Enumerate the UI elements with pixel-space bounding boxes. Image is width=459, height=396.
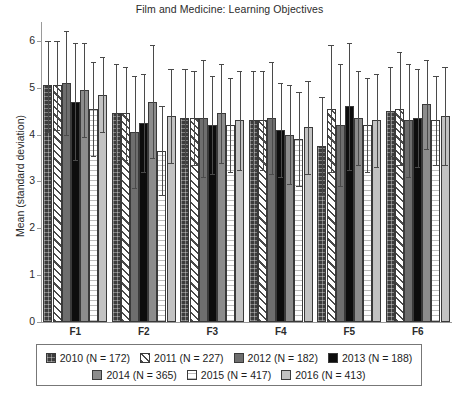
error-bar-cap	[237, 170, 242, 171]
error-bar-cap	[296, 92, 301, 93]
error-bar-2010-F4	[253, 71, 254, 169]
error-bar-cap	[228, 78, 233, 79]
error-bar-2011-F1	[57, 41, 58, 130]
error-bar-2015-F2	[162, 106, 163, 195]
y-tick	[37, 135, 41, 136]
error-bar-2014-F4	[290, 85, 291, 183]
error-bar-cap	[123, 67, 128, 68]
error-bar-2016-F2	[171, 69, 172, 163]
error-bar-cap	[433, 76, 438, 77]
error-bar-2016-F3	[240, 71, 241, 169]
error-bar-2014-F1	[84, 43, 85, 137]
legend-swatch-gray	[92, 370, 102, 380]
y-tick	[37, 181, 41, 182]
error-bar-cap	[201, 60, 206, 61]
error-bar-cap	[328, 172, 333, 173]
chart-legend: 2010 (N = 172)2011 (N = 227)2012 (N = 18…	[36, 344, 422, 386]
y-axis-line	[41, 22, 42, 322]
legend-swatch-white-diagonal-hatch	[140, 353, 150, 363]
y-tick-label: 3	[19, 174, 35, 186]
error-bar-2010-F3	[185, 69, 186, 167]
error-bar-cap	[374, 167, 379, 168]
error-bar-cap	[269, 62, 274, 63]
error-bar-2015-F3	[230, 78, 231, 172]
error-bar-cap	[442, 165, 447, 166]
error-bar-cap	[278, 83, 283, 84]
error-bar-2011-F3	[194, 71, 195, 165]
error-bar-cap	[347, 43, 352, 44]
y-tick	[37, 322, 41, 323]
error-bar-cap	[150, 158, 155, 159]
error-bar-cap	[406, 64, 411, 65]
error-bar-cap	[73, 160, 78, 161]
error-bar-cap	[397, 52, 402, 53]
error-bar-cap	[424, 60, 429, 61]
error-bar-cap	[210, 174, 215, 175]
error-bar-2013-F4	[281, 83, 282, 177]
x-tick-label-F4: F4	[247, 326, 316, 337]
plot-area: 0123456 F1F2F3F4F5F6	[41, 22, 452, 322]
y-tick-label: 0	[19, 315, 35, 327]
legend-item-2015[interactable]: 2015 (N = 417)	[187, 369, 271, 381]
error-bar-cap	[182, 69, 187, 70]
error-bar-2011-F4	[263, 71, 264, 169]
legend-label: 2010 (N = 172)	[60, 352, 130, 364]
error-bar-cap	[114, 163, 119, 164]
error-bar-2014-F2	[153, 45, 154, 158]
error-bar-cap	[182, 167, 187, 168]
x-tick-label-F5: F5	[315, 326, 384, 337]
error-bar-2016-F4	[308, 81, 309, 175]
error-bar-2012-F3	[203, 60, 204, 177]
error-bar-cap	[132, 76, 137, 77]
error-bar-2013-F6	[418, 69, 419, 167]
error-bar-cap	[54, 130, 59, 131]
x-tick-label-F6: F6	[384, 326, 453, 337]
error-bar-cap	[159, 195, 164, 196]
legend-swatch-white-horizontal-lines	[187, 370, 197, 380]
error-bar-cap	[260, 71, 265, 72]
legend-swatch-medium-gray	[234, 353, 244, 363]
error-bar-cap	[388, 156, 393, 157]
error-bar-cap	[338, 64, 343, 65]
legend-label: 2012 (N = 182)	[248, 352, 318, 364]
error-bar-cap	[141, 74, 146, 75]
legend-label: 2011 (N = 227)	[154, 352, 224, 364]
error-bar-2015-F6	[436, 76, 437, 165]
error-bar-2016-F6	[445, 67, 446, 165]
legend-item-2013[interactable]: 2013 (N = 188)	[328, 352, 412, 364]
legend-row: 2010 (N = 172)2011 (N = 227)2012 (N = 18…	[41, 349, 417, 366]
legend-label: 2014 (N = 365)	[106, 369, 176, 381]
error-bar-cap	[365, 78, 370, 79]
error-bar-2013-F3	[212, 76, 213, 174]
error-bar-2016-F5	[377, 74, 378, 168]
error-bar-cap	[305, 81, 310, 82]
legend-label: 2013 (N = 188)	[342, 352, 412, 364]
error-bar-cap	[64, 135, 69, 136]
legend-item-2012[interactable]: 2012 (N = 182)	[234, 352, 318, 364]
error-bar-cap	[45, 132, 50, 133]
error-bar-2014-F6	[427, 60, 428, 149]
legend-item-2011[interactable]: 2011 (N = 227)	[140, 352, 224, 364]
error-bar-cap	[347, 170, 352, 171]
error-bar-cap	[91, 156, 96, 157]
error-bar-cap	[251, 170, 256, 171]
error-bar-cap	[296, 186, 301, 187]
error-bar-2011-F6	[400, 52, 401, 165]
error-bar-cap	[82, 43, 87, 44]
chart-title: Film and Medicine: Learning Objectives	[0, 3, 459, 15]
error-bar-cap	[54, 41, 59, 42]
error-bar-cap	[228, 172, 233, 173]
error-bar-cap	[219, 163, 224, 164]
legend-item-2016[interactable]: 2016 (N = 413)	[281, 369, 365, 381]
y-tick	[37, 228, 41, 229]
legend-item-2014[interactable]: 2014 (N = 365)	[92, 369, 176, 381]
error-bar-cap	[338, 186, 343, 187]
error-bar-cap	[415, 69, 420, 70]
error-bar-cap	[328, 45, 333, 46]
x-tick-label-F2: F2	[110, 326, 179, 337]
error-bar-2010-F5	[322, 97, 323, 195]
error-bar-cap	[237, 71, 242, 72]
y-tick-label: 2	[19, 221, 35, 233]
error-bar-cap	[374, 74, 379, 75]
legend-item-2010[interactable]: 2010 (N = 172)	[46, 352, 130, 364]
